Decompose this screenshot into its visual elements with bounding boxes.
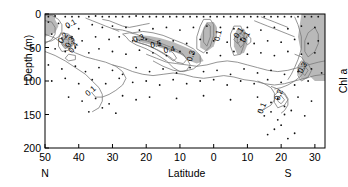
svg-text:0.1: 0.1 xyxy=(256,101,269,115)
svg-text:0.1: 0.1 xyxy=(212,29,223,42)
svg-text:0.1: 0.1 xyxy=(64,17,79,31)
svg-text:0.1: 0.1 xyxy=(83,84,98,98)
contour-value-labels: 0.10.20.30.40.30.50.40.30.10.10.10.30.20… xyxy=(56,17,309,115)
contour-lines xyxy=(45,15,325,113)
plot-axes xyxy=(45,14,325,148)
svg-text:0.2: 0.2 xyxy=(273,88,285,102)
contour-plot-canvas: 0.10.20.30.40.30.50.40.30.10.10.10.30.20… xyxy=(0,0,348,187)
chlorophyll-contour-figure: Depth (m) 0 50 100 150 200 50 40 30 20 1… xyxy=(0,0,348,187)
